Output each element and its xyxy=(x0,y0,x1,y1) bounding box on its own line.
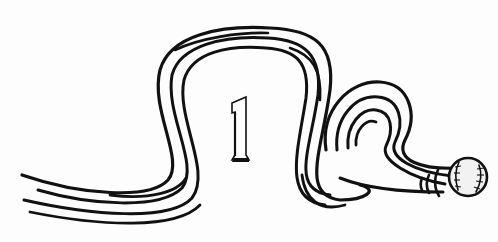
baseball-icon xyxy=(449,158,487,196)
trajectory-drawing: 1 xyxy=(0,0,498,242)
numeral-one: 1 xyxy=(0,0,249,162)
numeral-text: 1 xyxy=(0,0,8,3)
pitch-illustration: 1 xyxy=(0,0,498,242)
